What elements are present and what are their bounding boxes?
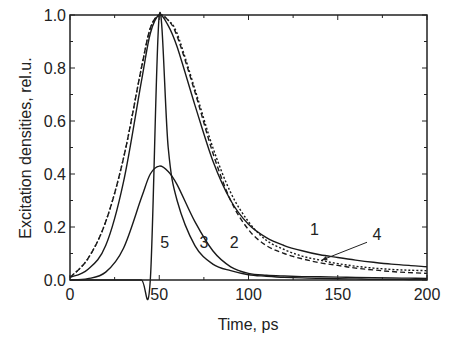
- excitation-density-chart: 0501001502000.00.20.40.60.81.0 12345 Tim…: [0, 0, 453, 349]
- y-axis-title: Excitation densities, rel.u.: [17, 57, 34, 238]
- y-tick-label: 0.4: [44, 166, 66, 183]
- x-tick-label: 150: [324, 286, 351, 303]
- curve-label-3: 3: [199, 234, 208, 251]
- curve-label-2: 2: [230, 234, 239, 251]
- y-tick-label: 0.8: [44, 60, 66, 77]
- axes: 0501001502000.00.20.40.60.81.0: [44, 7, 441, 303]
- curve-label-1: 1: [310, 221, 319, 238]
- y-tick-label: 0.6: [44, 113, 66, 130]
- curve-label-4: 4: [373, 226, 382, 243]
- x-tick-label: 100: [235, 286, 262, 303]
- y-tick-label: 0.0: [44, 272, 66, 289]
- y-tick-label: 0.2: [44, 219, 66, 236]
- x-tick-label: 50: [150, 286, 168, 303]
- x-axis-title: Time, ps: [218, 316, 279, 333]
- y-tick-label: 1.0: [44, 7, 66, 24]
- curve-label-5: 5: [160, 234, 169, 251]
- curves: [70, 12, 427, 299]
- curve-3: [70, 12, 427, 299]
- x-tick-label: 200: [414, 286, 441, 303]
- x-tick-label: 0: [66, 286, 75, 303]
- label-4-arrow: [322, 242, 367, 260]
